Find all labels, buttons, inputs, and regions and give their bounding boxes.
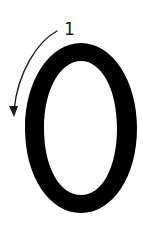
stroke-order-diagram: 1 (0, 0, 143, 227)
digit-zero-glyph (25, 43, 137, 213)
stroke-number-label: 1 (64, 19, 75, 39)
